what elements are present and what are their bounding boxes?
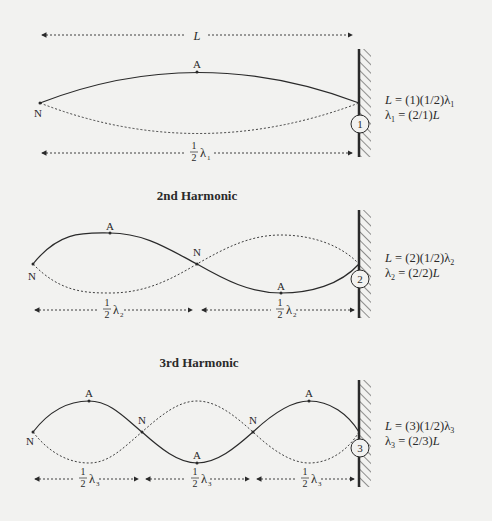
equations: L = (1)(1/2)λ1 λ1 = (2/1)L — [384, 93, 454, 124]
equation-wavelength: λ3 = (2/3)L — [385, 434, 440, 450]
svg-text:2: 2 — [193, 478, 198, 489]
svg-text:2: 2 — [192, 152, 197, 163]
svg-text:1: 1 — [303, 466, 308, 477]
equation-length: L = (1)(1/2)λ1 — [384, 93, 454, 109]
half-wavelength-arrow: 1 2 λ 3 — [257, 466, 354, 489]
svg-text:1: 1 — [192, 140, 197, 151]
wave-dashed — [40, 103, 359, 134]
svg-text:3: 3 — [208, 480, 212, 488]
harmonic-3: 3rd Harmonic N N N A A A 1 2 λ 3 1 2 — [26, 355, 454, 489]
harmonic-number-badge: 1 — [351, 115, 369, 133]
svg-text:λ: λ — [113, 303, 119, 317]
antinode-label: A — [106, 220, 114, 232]
svg-text:3: 3 — [318, 480, 322, 488]
svg-text:3: 3 — [96, 480, 100, 488]
svg-text:2: 2 — [357, 273, 363, 285]
length-arrow: L — [42, 29, 352, 43]
node-label: N — [138, 414, 146, 426]
harmonic-number-badge: 3 — [351, 439, 369, 457]
wall — [359, 49, 371, 157]
svg-text:λ: λ — [311, 472, 317, 486]
section-title: 2nd Harmonic — [157, 188, 238, 203]
svg-text:2: 2 — [293, 311, 297, 319]
antinode-label: A — [85, 387, 93, 399]
harmonic-number-badge: 2 — [351, 270, 369, 288]
svg-text:1: 1 — [81, 466, 86, 477]
equations: L = (2)(1/2)λ2 λ2 = (2/2)L — [384, 251, 454, 282]
svg-text:1: 1 — [357, 118, 363, 130]
antinode-label: A — [193, 449, 201, 461]
svg-text:λ: λ — [89, 472, 95, 486]
half-wavelength-arrow: 1 2 λ 3 — [35, 466, 138, 489]
svg-text:1: 1 — [105, 297, 110, 308]
wall — [359, 210, 371, 318]
antinode-label: A — [305, 387, 313, 399]
node-label: N — [34, 107, 42, 119]
node-label: N — [193, 246, 201, 258]
equation-wavelength: λ2 = (2/2)L — [385, 266, 440, 282]
length-label: L — [193, 29, 201, 43]
node-label: N — [26, 435, 34, 447]
svg-text:2: 2 — [303, 478, 308, 489]
node-label: N — [249, 414, 257, 426]
equation-wavelength: λ1 = (2/1)L — [385, 108, 440, 124]
half-wavelength-arrow: 1 2 λ 2 — [202, 297, 354, 320]
equation-length: L = (3)(1/2)λ3 — [384, 419, 454, 435]
equations: L = (3)(1/2)λ3 λ3 = (2/3)L — [384, 419, 454, 450]
svg-text:λ: λ — [286, 303, 292, 317]
wave-solid — [40, 73, 359, 104]
svg-text:2: 2 — [278, 309, 283, 320]
svg-text:1: 1 — [207, 154, 211, 162]
svg-text:λ: λ — [200, 146, 206, 160]
equation-length: L = (2)(1/2)λ2 — [384, 251, 454, 267]
half-wavelength-arrow: 1 2 λ 3 — [146, 466, 249, 489]
svg-text:3: 3 — [357, 442, 363, 454]
antinode-label: A — [277, 280, 285, 292]
node-dot — [39, 102, 42, 105]
svg-text:2: 2 — [105, 309, 110, 320]
wall — [359, 380, 371, 487]
antinode-dot — [196, 71, 199, 74]
svg-text:1: 1 — [193, 466, 198, 477]
standing-waves-diagram: L N A 1 2 λ 1 1 L = (1)(1/2)λ1 — [0, 0, 492, 521]
section-title: 3rd Harmonic — [159, 355, 238, 370]
harmonic-1: L N A 1 2 λ 1 1 L = (1)(1/2)λ1 — [34, 29, 454, 163]
svg-text:2: 2 — [120, 311, 124, 319]
half-wavelength-arrow: 1 2 λ 2 — [35, 297, 192, 320]
antinode-label: A — [193, 58, 201, 70]
half-wavelength-arrow: 1 2 λ 1 — [42, 140, 352, 163]
svg-text:2: 2 — [81, 478, 86, 489]
svg-text:λ: λ — [201, 472, 207, 486]
svg-text:1: 1 — [278, 297, 283, 308]
node-label: N — [28, 270, 36, 282]
harmonic-2: 2nd Harmonic N N A A 1 2 λ 2 1 2 λ 2 — [28, 188, 454, 320]
